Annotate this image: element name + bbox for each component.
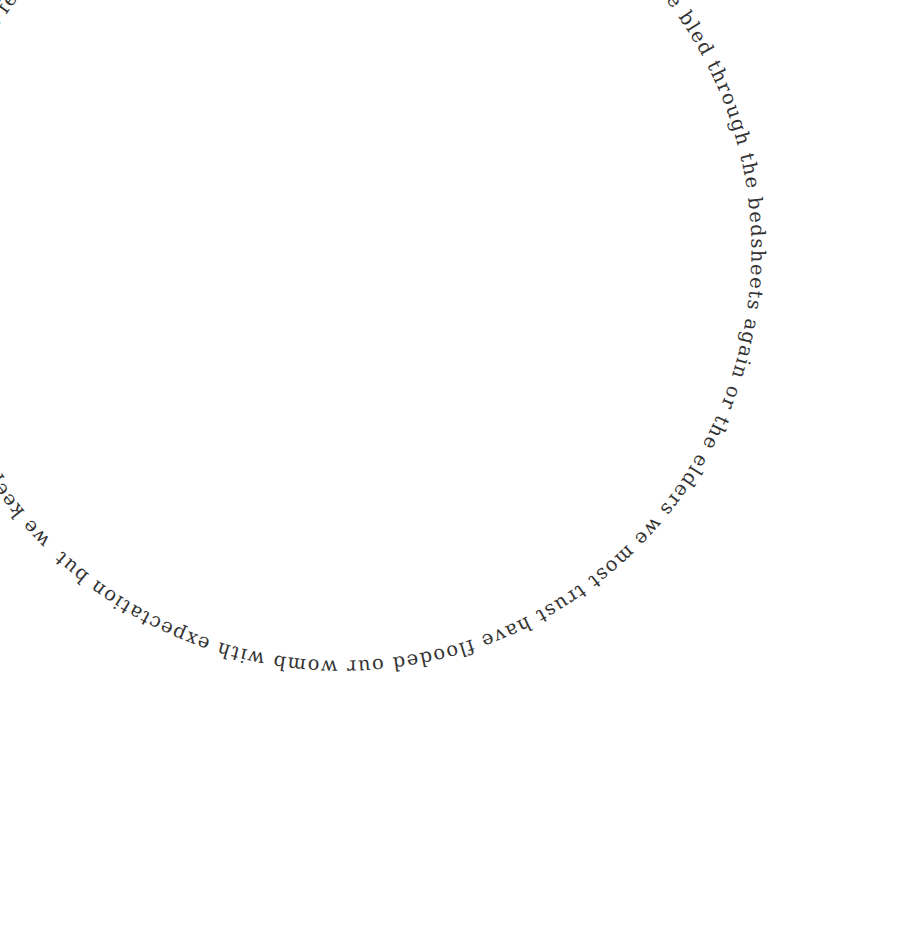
circular-poem-canvas: we keep praying the 91st psalm over the … — [0, 0, 916, 934]
poem-text-path: we keep praying the 91st psalm over the … — [0, 0, 769, 679]
circular-poem-text: we keep praying the 91st psalm over the … — [0, 0, 769, 679]
circular-poem-svg: we keep praying the 91st psalm over the … — [0, 0, 916, 934]
